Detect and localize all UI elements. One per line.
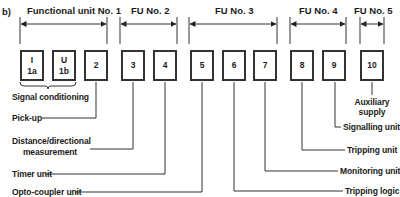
label-timer-unit: Timer unit <box>12 170 52 179</box>
fu1-label: Functional unit No. 1 <box>27 6 121 16</box>
label-distance-line2: measurement <box>12 148 88 157</box>
box-2: 2 <box>84 50 108 81</box>
box-8: 8 <box>290 50 314 81</box>
figure-label: b) <box>2 7 11 17</box>
box-1a-current: I 1a <box>20 50 44 81</box>
label-tripping-unit: Tripping unit <box>347 146 397 155</box>
label-signalling-unit: Signalling unit <box>343 123 400 132</box>
box-5: 5 <box>190 50 214 81</box>
box-4: 4 <box>153 50 177 81</box>
fu4-label: FU No. 4 <box>299 6 338 16</box>
label-auxiliary-supply: Auxiliary supply <box>352 98 392 116</box>
box-1a-top: I <box>31 55 33 66</box>
label-distance-line1: Distance/directional <box>12 137 88 146</box>
label-tripping-logic: Tripping logic <box>345 187 399 196</box>
label-signal-conditioning: Signal conditioning <box>12 93 89 102</box>
label-monitoring-unit: Monitoring unit <box>340 167 400 176</box>
box-6: 6 <box>222 50 246 81</box>
label-auxiliary-line2: supply <box>352 108 392 117</box>
label-distance-directional: Distance/directional measurement <box>12 137 88 156</box>
box-7: 7 <box>253 50 277 81</box>
fu2-label: FU No. 2 <box>131 6 170 16</box>
box-1a-bottom: 1a <box>27 66 36 77</box>
box-1b-voltage: U 1b <box>52 50 76 81</box>
box-1b-top: U <box>61 55 67 66</box>
label-auxiliary-line1: Auxiliary <box>352 98 392 107</box>
label-pick-up: Pick-up <box>12 114 42 123</box>
fu5-label: FU No. 5 <box>354 6 393 16</box>
box-10: 10 <box>360 50 384 81</box>
label-opto-coupler-unit: Opto-coupler unit <box>12 188 82 197</box>
box-1b-bottom: 1b <box>59 66 69 77</box>
box-9: 9 <box>322 50 346 81</box>
box-3: 3 <box>121 50 145 81</box>
fu3-label: FU No. 3 <box>215 6 254 16</box>
